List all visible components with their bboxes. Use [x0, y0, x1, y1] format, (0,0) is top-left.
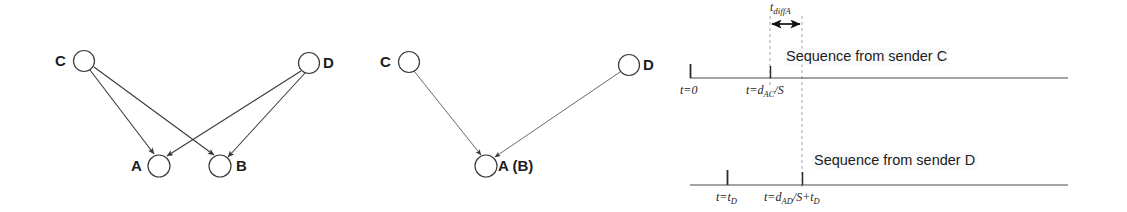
node-label-d-mid: D [643, 57, 654, 72]
node-label-d: D [323, 55, 334, 70]
panel-right-guides [770, 16, 802, 190]
node-d-circle [299, 53, 320, 74]
node-label-a: A [131, 158, 142, 173]
tick-label-t-dad: t=dAD/S+tD [764, 191, 820, 203]
figure-root: C D A B C D A (B) tdiffA Sequence from s… [0, 0, 1127, 212]
edge-c-to-a [90, 70, 154, 154]
node-label-c: C [55, 53, 66, 68]
node-b-circle [209, 155, 231, 177]
node-d-mid-circle [619, 55, 640, 76]
tdiff-label: tdiffA [770, 2, 791, 14]
panel-left-edges [90, 67, 305, 157]
sequence-from-sender-d-label: Sequence from sender D [812, 152, 977, 169]
edge-c-to-ab [414, 71, 481, 155]
node-label-ab: A (B) [498, 158, 533, 173]
timeline-d-group [690, 170, 1068, 185]
node-c-circle [74, 51, 95, 72]
panel-left-nodes [74, 51, 320, 178]
edge-d-to-ab [495, 72, 620, 157]
timeline-c-group [690, 64, 1068, 78]
sequence-from-sender-c-label: Sequence from sender C [784, 48, 949, 65]
tick-label-t-zero: t=0 [680, 84, 697, 96]
panel-middle-edges [414, 71, 620, 157]
edge-c-to-b [94, 67, 214, 155]
node-ab-circle [475, 155, 497, 177]
edge-d-to-b [228, 73, 305, 157]
edge-d-to-a [167, 71, 301, 156]
node-label-b: B [236, 158, 247, 173]
tick-label-t-td: t=tD [716, 191, 737, 203]
figure-canvas [0, 0, 1127, 212]
node-c-mid-circle [399, 52, 420, 73]
node-label-c-mid: C [380, 54, 391, 69]
node-a-circle [148, 155, 170, 177]
tick-label-t-dac: t=dAC/S [746, 84, 784, 96]
